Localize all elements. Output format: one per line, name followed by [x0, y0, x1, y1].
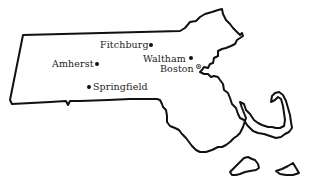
nantucket-outline	[276, 163, 299, 175]
massachusetts-map: Fitchburg Amherst Waltham Boston ⊛ Sprin…	[0, 0, 309, 187]
city-label-fitchburg: Fitchburg	[100, 40, 149, 50]
capital-star-icon: ⊛	[195, 63, 202, 71]
city-label-boston: Boston	[160, 64, 194, 74]
marthas-vineyard-outline	[230, 157, 259, 175]
city-label-amherst: Amherst	[52, 59, 94, 69]
city-dot-fitchburg	[149, 43, 153, 47]
city-dot-springfield	[87, 85, 91, 89]
state-outline	[0, 0, 309, 187]
city-label-springfield: Springfield	[93, 82, 148, 92]
city-dot-amherst	[95, 62, 99, 66]
mainland-outline	[10, 9, 292, 152]
city-dot-waltham	[189, 56, 193, 60]
